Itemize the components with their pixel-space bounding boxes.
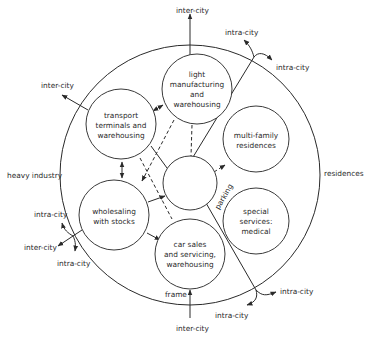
arrow-bottom-right-intra-2 xyxy=(247,290,257,305)
label-light-1: light xyxy=(189,70,205,79)
label-transport-2: terminals and xyxy=(96,121,147,130)
dashed-light-center xyxy=(191,125,192,156)
label-wholesale-1: wholesaling xyxy=(92,207,136,216)
label-carsales-3: warehousing xyxy=(166,260,213,269)
road-wholesale-west xyxy=(73,230,82,236)
arrow-top-right-intra-2 xyxy=(254,54,272,60)
link-transport-light xyxy=(153,105,163,111)
label-top-right-intra-1: intra-city xyxy=(225,28,259,37)
label-carsales-1: car sales xyxy=(174,240,207,249)
label-carsales-2: and servicing, xyxy=(164,250,216,259)
center-circle xyxy=(163,156,217,210)
label-bottom-right-intra-1: intra-city xyxy=(280,287,314,296)
zone-light-manufacturing xyxy=(162,54,232,124)
label-top-inter-city: inter-city xyxy=(176,6,209,15)
label-left-inter-lower: inter-city xyxy=(24,243,57,252)
label-light-4: warehousing xyxy=(173,100,220,109)
label-top-right-intra-2: intra-city xyxy=(276,63,310,72)
label-residences: residences xyxy=(324,169,364,178)
arrow-left-intra-lower xyxy=(73,236,75,251)
label-light-2: manufacturing xyxy=(170,80,225,89)
label-light-3: and xyxy=(190,90,204,99)
zoning-diagram: light manufacturing and warehousing tran… xyxy=(0,0,369,350)
label-frame: frame xyxy=(165,290,187,299)
label-multifamily-2: residences xyxy=(236,141,276,150)
arrow-left-inter-city xyxy=(62,95,88,110)
label-special-2: services: xyxy=(240,217,273,226)
arrow-left-intra-upper xyxy=(62,223,73,236)
label-transport-3: warehousing xyxy=(97,131,144,140)
label-special-3: medical xyxy=(241,227,270,236)
arrow-left-inter-city-lower xyxy=(58,236,73,246)
label-transport-1: transport xyxy=(104,111,138,120)
label-left-intra-lower: intra-city xyxy=(57,259,91,268)
arrow-bottom-right-intra-1 xyxy=(256,290,276,295)
label-bottom-right-intra-2: intra-city xyxy=(215,311,249,320)
label-left-inter-city: inter-city xyxy=(41,81,74,90)
label-wholesale-2: with stocks xyxy=(93,217,135,226)
label-bottom-inter-city: inter-city xyxy=(176,324,209,333)
label-heavy-industry: heavy industry xyxy=(7,171,63,180)
label-multifamily-1: multi-family xyxy=(234,131,279,140)
label-special-1: special xyxy=(243,207,269,216)
label-left-intra-upper: intra-city xyxy=(34,210,68,219)
dashed-center-multifamily xyxy=(214,165,225,172)
arrow-top-right-intra-1 xyxy=(244,40,254,57)
